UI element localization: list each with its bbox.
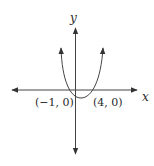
point-label-4: (4, 0) [93,96,123,109]
point-label-neg1: (−1, 0) [35,96,74,109]
graph-canvas: y x (−1, 0) (4, 0) [0,0,154,166]
y-axis-label: y [69,11,77,25]
x-axis-label: x [142,90,149,104]
